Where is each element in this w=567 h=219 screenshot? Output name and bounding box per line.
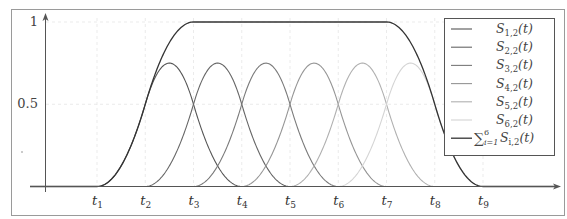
stray-dot <box>21 151 23 153</box>
bspline-chart: 10.5 t1t2t3t4t5t6t7t8t9 S1,2(t)S2,2(t)S3… <box>0 0 567 219</box>
y-tick-label: 1 <box>30 14 38 29</box>
svg-text:∑: ∑ <box>474 130 484 146</box>
y-tick-label: 0.5 <box>17 96 38 111</box>
svg-text:6: 6 <box>484 128 489 137</box>
legend-label-sum: ∑6i=1Si,2(t) <box>474 128 534 147</box>
legend: S1,2(t)S2,2(t)S3,2(t)S4,2(t)S5,2(t)S6,2(… <box>445 19 555 156</box>
svg-text:i=1: i=1 <box>484 138 498 147</box>
